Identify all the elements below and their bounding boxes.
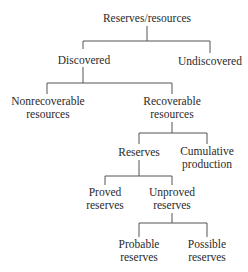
node-recoverable-resources: Recoverable resources xyxy=(143,95,200,121)
node-nonrecoverable-resources: Nonrecoverable resources xyxy=(11,95,84,121)
node-label-line1: Recoverable xyxy=(143,95,200,108)
node-label: Reserves/resources xyxy=(103,12,191,24)
node-probable-reserves: Probable reserves xyxy=(119,238,160,264)
node-label-line1: Possible xyxy=(188,238,226,251)
node-cumulative-production: Cumulative production xyxy=(180,145,234,171)
connector-lines xyxy=(0,0,248,272)
node-label: Undiscovered xyxy=(178,55,242,67)
node-label-line2: reserves xyxy=(188,251,226,264)
node-possible-reserves: Possible reserves xyxy=(188,238,226,264)
node-label: Reserves xyxy=(118,146,160,158)
node-label-line2: production xyxy=(180,158,234,171)
node-label-line1: Cumulative xyxy=(180,145,234,158)
node-label-line2: reserves xyxy=(149,199,195,212)
node-label-line1: Nonrecoverable xyxy=(11,95,84,108)
node-label-line2: resources xyxy=(143,108,200,121)
node-undiscovered: Undiscovered xyxy=(178,55,242,68)
node-label-line2: reserves xyxy=(119,251,160,264)
node-discovered: Discovered xyxy=(58,54,110,67)
node-proved-reserves: Proved reserves xyxy=(86,186,124,212)
node-label-line1: Unproved xyxy=(149,186,195,199)
node-unproved-reserves: Unproved reserves xyxy=(149,186,195,212)
node-label-line2: resources xyxy=(11,108,84,121)
node-reserves: Reserves xyxy=(118,146,160,159)
node-label-line1: Probable xyxy=(119,238,160,251)
node-label-line2: reserves xyxy=(86,199,124,212)
node-label: Discovered xyxy=(58,54,110,66)
node-label-line1: Proved xyxy=(86,186,124,199)
node-reserves-resources: Reserves/resources xyxy=(103,12,191,25)
